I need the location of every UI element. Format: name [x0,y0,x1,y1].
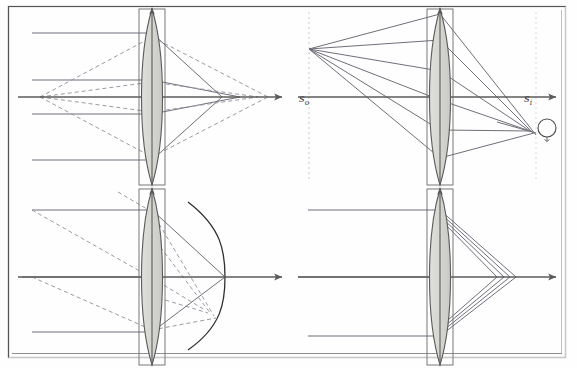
oblique-ray-bundle-out [440,14,536,158]
ray-oblique [309,49,440,100]
ray-oblique [309,40,440,49]
ray-oblique [309,49,440,130]
ray-dashed [40,97,152,157]
panel-field-curvature [18,188,282,365]
ray-converging [440,277,516,336]
converging-ray-bundle [440,210,516,336]
oblique-ray-bundle-in [309,14,440,158]
ray-oblique [440,130,531,131]
ray-dashed [152,82,258,97]
dashed-ray-bundle [32,192,216,330]
ray-dashed [32,277,152,330]
panel-longitudinal-aberration [298,188,556,365]
biconvex-lens [139,8,165,185]
ray-dashed [152,97,258,112]
ray-oblique [440,133,534,158]
ray-oblique [309,14,440,49]
object-distance-label: so [299,92,309,107]
curved-focal-surface [188,202,225,350]
parallel-ray-bundle [298,210,440,336]
ray-converging [440,210,516,277]
ray-dashed [40,82,152,97]
blur-circle-tick [545,137,550,142]
ray-dashed [152,97,268,157]
panel-spherical-aberration [18,8,282,185]
ray-dashed [40,37,152,97]
optics-aberration-figure [0,0,577,368]
figure-border [9,7,566,358]
ray-dashed [32,210,152,278]
biconvex-lens [427,188,453,365]
ray-oblique [440,71,530,131]
parallel-ray-bundle [22,210,152,332]
image-distance-label: si [524,92,532,107]
biconvex-lens [139,188,165,365]
blur-circle [538,119,556,137]
ray-dashed [152,37,268,97]
ray-dashed [152,318,216,330]
diagram-canvas: so si [0,0,577,368]
panel-coma-blur-circle [298,8,556,185]
ray-oblique [440,40,533,133]
biconvex-lens [427,8,453,185]
ray-oblique [309,49,440,71]
ray-oblique [309,49,440,158]
ray-dashed [40,97,152,112]
